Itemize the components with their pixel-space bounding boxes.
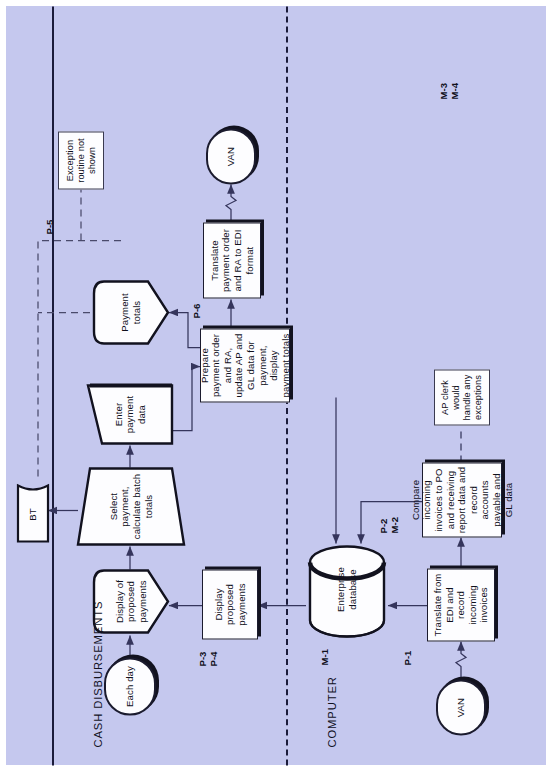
node-translate-to-edi-format[interactable]: Translate payment order and RA to EDI fo… <box>203 222 261 298</box>
node-enterprise-database[interactable]: Enterprise database <box>306 542 388 640</box>
ref-m1: M-1 <box>319 648 331 665</box>
ref-p2: P-2 <box>378 518 390 533</box>
node-ap-clerk-note-label: AP clerk would handle any exceptions <box>440 370 484 424</box>
diagram-sheet: CASH DISBURSEMENTS COMPUTER Each day Dis… <box>6 6 546 765</box>
node-display-proposed-payments-label: Display proposed payments <box>213 570 248 638</box>
lane-title-computer: COMPUTER <box>326 676 338 747</box>
node-display-of-proposed-payments-label: Display of proposed payments <box>114 570 149 632</box>
node-prepare-payment-order-label: Prepare payment order and RA, update AP … <box>199 329 292 401</box>
diagram-canvas: CASH DISBURSEMENTS COMPUTER Each day Dis… <box>6 6 546 765</box>
node-bt-document[interactable]: BT <box>16 475 50 543</box>
node-van-out[interactable]: VAN <box>206 128 256 184</box>
flowchart-page: CASH DISBURSEMENTS COMPUTER Each day Dis… <box>0 0 552 771</box>
node-exception-routine-note: Exception routine not shown <box>58 131 104 189</box>
node-payment-totals-label: Payment totals <box>119 282 142 342</box>
ref-p1: P-1 <box>402 650 414 665</box>
lane-title-cash-disbursements: CASH DISBURSEMENTS <box>92 600 104 747</box>
node-payment-totals[interactable]: Payment totals <box>92 279 170 345</box>
ref-p3: P-3 <box>197 651 209 666</box>
node-ap-clerk-note: AP clerk would handle any exceptions <box>434 369 490 425</box>
node-each-day[interactable]: Each day <box>104 657 156 715</box>
node-translate-to-edi-format-label: Translate payment order and RA to EDI fo… <box>209 223 255 297</box>
node-enter-payment-data-label: Enter payment data <box>113 385 148 443</box>
node-display-proposed-payments[interactable]: Display proposed payments <box>202 569 258 639</box>
node-compare-invoices[interactable]: Compare incoming invoices to PO and rece… <box>422 462 502 537</box>
node-van-out-label: VAN <box>225 143 237 168</box>
node-select-payment[interactable]: Select payment, calculate batch totals <box>76 466 186 546</box>
ref-p5: P-5 <box>44 219 56 234</box>
node-enterprise-database-label: Enterprise database <box>335 558 358 620</box>
node-each-day-label: Each day <box>124 663 136 710</box>
node-prepare-payment-order[interactable]: Prepare payment order and RA, update AP … <box>200 328 290 402</box>
node-bt-document-label: BT <box>27 505 39 523</box>
ref-p6: P-6 <box>191 303 203 318</box>
node-compare-invoices-label: Compare incoming invoices to PO and rece… <box>410 463 514 536</box>
node-van-in-label: VAN <box>455 694 467 719</box>
ref-m4: M-4 <box>449 82 461 99</box>
ref-m2: M-2 <box>389 516 401 533</box>
diagram-rotor: CASH DISBURSEMENTS COMPUTER Each day Dis… <box>6 6 546 765</box>
ref-p4: P-4 <box>208 651 220 666</box>
node-van-in[interactable]: VAN <box>436 679 486 735</box>
node-translate-from-edi-label: Translate from EDI and record incoming i… <box>432 569 490 640</box>
ref-m3: M-3 <box>438 82 450 99</box>
node-exception-routine-note-label: Exception routine not shown <box>65 132 98 188</box>
node-translate-from-edi[interactable]: Translate from EDI and record incoming i… <box>427 568 495 641</box>
node-select-payment-label: Select payment, calculate batch totals <box>108 470 154 542</box>
node-enter-payment-data[interactable]: Enter payment data <box>86 383 174 445</box>
